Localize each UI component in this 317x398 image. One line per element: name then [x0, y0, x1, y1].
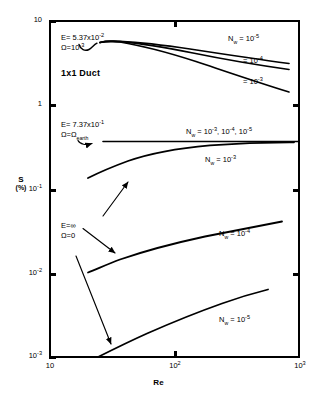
ytick-label-10: 10 — [34, 16, 42, 24]
annotation-mid-params: E= 7.37x10-1 Ω=Ωearth — [61, 120, 104, 140]
ytick-mark-4 — [49, 273, 56, 276]
xtick-mark-1e2 — [174, 351, 177, 358]
ytick-label-1e-3: 10-3 — [29, 352, 42, 360]
ytick-mark-1 — [49, 20, 56, 23]
ytick-mark-5 — [49, 356, 56, 359]
curve-label-top-nw-1e-5: Nw = 10-5 — [228, 34, 259, 44]
annotation-low-omega: Ω=0 — [61, 231, 76, 241]
curve-label-top-nw-1e-4: = 10-4 — [243, 56, 263, 66]
annotation-top-params: E= 5.37x10-2 Ω=10-3 — [61, 33, 104, 53]
xtick-label-1e2: 102 — [164, 362, 186, 370]
annotation-mid-E: E= 7.37x10-1 — [61, 120, 104, 130]
annotation-top-omega: Ω=10-3 — [61, 43, 104, 53]
ytick-mark-right-2 — [293, 104, 300, 107]
annotation-low-params: E=∞ Ω=0 — [61, 221, 76, 241]
ytick-mark-right-3 — [293, 189, 300, 192]
ytick-mark-3 — [49, 189, 56, 192]
y-axis-title-symbol: S — [6, 176, 36, 184]
ytick-mark-right-4 — [293, 273, 300, 276]
ytick-mark-2 — [49, 104, 56, 107]
x-axis-title: Re — [0, 378, 317, 387]
curve-label-mid-rise-nw-1e-3: Nw = 10-3 — [205, 155, 236, 165]
curve-label-mid-flat-nw-set: Nw = 10-3, 10-4, 10-5 — [186, 127, 252, 137]
figure-container: 10 1 10-1 10-2 10-3 10 102 103 Re S — [0, 0, 317, 398]
xtick-mark-1e2-top — [174, 20, 177, 27]
annotation-mid-omega: Ω=Ωearth — [61, 130, 104, 140]
curve-label-nw-1e-5: Nw = 10-5 — [219, 315, 250, 325]
y-axis-title-unit: (%) — [6, 184, 36, 191]
xtick-label-10: 10 — [39, 362, 61, 370]
annotation-low-E: E=∞ — [61, 221, 76, 231]
curve-label-nw-1e-4: Nw = 10-4 — [219, 229, 250, 239]
xtick-label-1e3: 103 — [289, 362, 311, 370]
curve-label-top-nw-1e-3: = 10-3 — [243, 77, 263, 87]
y-axis-title: S (%) — [6, 176, 36, 192]
ytick-label-1: 1 — [38, 100, 42, 108]
ytick-label-1e-2: 10-2 — [29, 269, 42, 277]
annotation-duct-label: 1x1 Duct — [61, 67, 100, 79]
